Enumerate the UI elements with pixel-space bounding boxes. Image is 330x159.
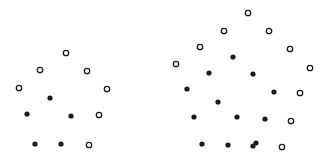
- data-point-filled-dot: [206, 70, 211, 75]
- data-point-open-circle: [287, 46, 292, 51]
- data-point-open-circle: [37, 67, 42, 72]
- data-point-open-circle: [104, 86, 109, 91]
- data-point-open-circle: [307, 65, 312, 70]
- scatter-plot-canvas: [0, 0, 330, 159]
- data-point-filled-dot: [47, 95, 52, 100]
- scatter-plot-figure: [0, 0, 330, 159]
- data-point-filled-dot: [262, 116, 267, 121]
- data-point-open-circle: [288, 118, 293, 123]
- data-point-open-circle: [16, 85, 21, 90]
- data-point-open-circle: [96, 112, 101, 117]
- data-point-filled-dot: [215, 99, 220, 104]
- data-point-open-circle: [245, 10, 250, 15]
- data-point-filled-dot: [32, 141, 37, 146]
- plot-background: [0, 0, 330, 159]
- data-point-filled-dot: [24, 111, 29, 116]
- data-point-open-circle: [266, 28, 271, 33]
- data-point-filled-dot: [225, 142, 230, 147]
- data-point-open-circle: [63, 50, 68, 55]
- data-point-open-circle: [86, 142, 91, 147]
- data-point-filled-dot: [199, 141, 204, 146]
- data-point-filled-dot: [253, 140, 258, 145]
- data-point-open-circle: [297, 90, 302, 95]
- data-point-filled-dot: [230, 54, 235, 59]
- data-point-filled-dot: [68, 113, 73, 118]
- data-point-filled-dot: [250, 71, 255, 76]
- data-point-open-circle: [279, 144, 284, 149]
- data-point-filled-dot: [58, 141, 63, 146]
- data-point-filled-dot: [234, 114, 239, 119]
- data-point-open-circle: [173, 61, 178, 66]
- data-point-filled-dot: [184, 86, 189, 91]
- data-point-open-circle: [84, 68, 89, 73]
- data-point-open-circle: [197, 44, 202, 49]
- data-point-open-circle: [221, 28, 226, 33]
- data-point-filled-dot: [191, 114, 196, 119]
- data-point-filled-dot: [271, 89, 276, 94]
